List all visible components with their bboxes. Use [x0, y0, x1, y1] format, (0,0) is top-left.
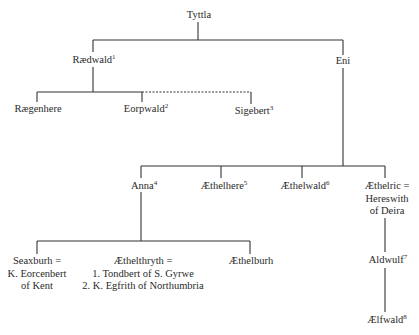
node-raegenhere: Rægenhere — [14, 103, 61, 116]
node-line: Hereswith — [365, 193, 410, 206]
node-sigebert: Sigebert3 — [235, 105, 274, 118]
node-name: Eorpwald — [124, 103, 165, 114]
node-name: Rædwald — [72, 54, 112, 65]
node-aethelburh: Æthelburh — [229, 255, 273, 268]
node-name: Sigebert — [235, 105, 270, 116]
footnote-marker: 6 — [326, 179, 330, 187]
footnote-marker: 3 — [270, 104, 274, 112]
node-name: Anna — [131, 180, 154, 191]
node-aldwulf: Aldwulf7 — [369, 254, 408, 267]
node-line: Æthelthryth = — [82, 255, 203, 268]
node-aethelric: Æthelric = Hereswith of Deira — [365, 180, 410, 218]
node-aethelwald: Æthelwald6 — [281, 180, 330, 193]
node-raedwald: Rædwald1 — [72, 54, 115, 67]
node-name: Rægenhere — [14, 103, 61, 114]
node-line: K. Eorcenbert — [8, 268, 67, 281]
node-line: Æthelric = — [365, 180, 410, 193]
node-aethelhere: Æthelhere5 — [201, 180, 248, 193]
node-line: 2. K. Egfrith of Northumbria — [82, 280, 203, 293]
node-name: Æthelburh — [229, 255, 273, 266]
node-tyttla: Tyttla — [187, 9, 211, 22]
footnote-marker: 5 — [244, 179, 248, 187]
node-name: Æthelwald — [281, 180, 327, 191]
node-line: 1. Tondbert of S. Gyrwe — [82, 268, 203, 281]
footnote-marker: 1 — [112, 53, 116, 61]
node-aelfwald: Ælfwald8 — [367, 314, 407, 327]
node-line: of Deira — [365, 205, 410, 218]
footnote-marker: 8 — [403, 313, 407, 321]
node-name: Ælfwald — [367, 314, 403, 325]
node-seaxburh: Seaxburh = K. Eorcenbert of Kent — [8, 255, 67, 293]
node-eni: Eni — [335, 55, 352, 68]
footnote-marker: 7 — [404, 253, 408, 261]
node-aethelthryth: Æthelthryth = 1. Tondbert of S. Gyrwe 2.… — [82, 255, 203, 293]
node-line: Seaxburh = — [8, 255, 67, 268]
footnote-marker: 2 — [165, 102, 169, 110]
node-name: Æthelhere — [201, 180, 244, 191]
node-name: Tyttla — [187, 9, 211, 20]
node-line: of Kent — [8, 280, 67, 293]
node-name: Aldwulf — [369, 254, 404, 265]
node-eorpwald: Eorpwald2 — [124, 103, 168, 116]
node-anna: Anna4 — [131, 180, 157, 193]
node-name: Eni — [336, 55, 351, 66]
footnote-marker: 4 — [154, 179, 158, 187]
